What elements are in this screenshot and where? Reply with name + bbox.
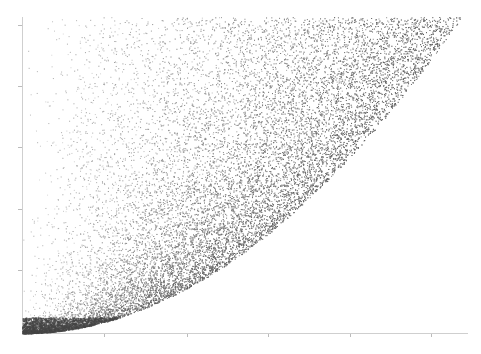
scatter-plot-canvas xyxy=(0,0,481,354)
